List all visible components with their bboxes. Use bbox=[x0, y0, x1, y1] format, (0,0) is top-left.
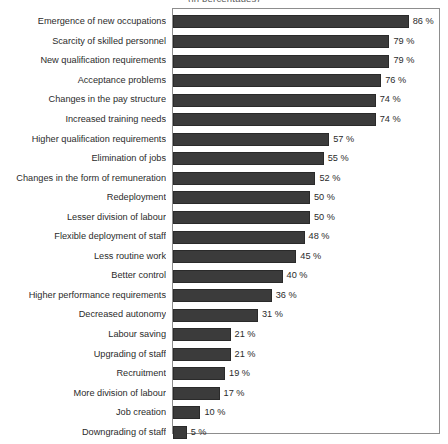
bar-value-label: 17 % bbox=[224, 384, 245, 404]
bar-row: Downgrading of staff5 % bbox=[0, 423, 448, 443]
bar-category-label: Job creation bbox=[0, 403, 166, 423]
bar-value-label: 86 % bbox=[413, 12, 434, 32]
bar-category-label: Higher qualification requirements bbox=[0, 130, 166, 150]
bar bbox=[173, 270, 283, 283]
bar bbox=[173, 15, 409, 28]
bar bbox=[173, 211, 310, 224]
bar-category-label: Recruitment bbox=[0, 364, 166, 384]
bar-value-label: 76 % bbox=[385, 71, 406, 91]
bar-row: Changes in the form of remuneration52 % bbox=[0, 169, 448, 189]
bar-row: Better control40 % bbox=[0, 266, 448, 286]
bar-row: Higher qualification requirements57 % bbox=[0, 130, 448, 150]
bar-row: Increased training needs74 % bbox=[0, 110, 448, 130]
bar bbox=[173, 289, 272, 302]
bar-chart: (in percentages) Emergence of new occupa… bbox=[0, 0, 448, 444]
bar-row: Job creation10 % bbox=[0, 403, 448, 423]
bar-row: Higher performance requirements36 % bbox=[0, 286, 448, 306]
bar-category-label: Better control bbox=[0, 266, 166, 286]
bar-value-label: 36 % bbox=[276, 286, 297, 306]
bar bbox=[173, 250, 296, 263]
bar-category-label: Redeployment bbox=[0, 188, 166, 208]
bar-row: Lesser division of labour50 % bbox=[0, 208, 448, 228]
bar-row: Recruitment19 % bbox=[0, 364, 448, 384]
bar-category-label: Lesser division of labour bbox=[0, 208, 166, 228]
bar-value-label: 79 % bbox=[393, 32, 414, 52]
bar-value-label: 40 % bbox=[287, 266, 308, 286]
bar-category-label: Labour saving bbox=[0, 325, 166, 345]
bar-value-label: 5 % bbox=[191, 423, 207, 443]
bar bbox=[173, 133, 329, 146]
bar-category-label: Higher performance requirements bbox=[0, 286, 166, 306]
bar-category-label: Increased training needs bbox=[0, 110, 166, 130]
bar-value-label: 74 % bbox=[380, 110, 401, 130]
bar bbox=[173, 74, 381, 87]
bar-row: Labour saving21 % bbox=[0, 325, 448, 345]
bar bbox=[173, 309, 258, 322]
bar bbox=[173, 152, 324, 165]
bar bbox=[173, 94, 376, 107]
bar-category-label: Changes in the pay structure bbox=[0, 90, 166, 110]
bar-category-label: Emergence of new occupations bbox=[0, 12, 166, 32]
bar-category-label: Acceptance problems bbox=[0, 71, 166, 91]
bar-row: Decreased autonomy31 % bbox=[0, 305, 448, 325]
bar bbox=[173, 113, 376, 126]
bar bbox=[173, 406, 200, 419]
bar-row: Changes in the pay structure74 % bbox=[0, 90, 448, 110]
bar bbox=[173, 55, 389, 68]
bar bbox=[173, 348, 231, 361]
bar-category-label: Upgrading of staff bbox=[0, 345, 166, 365]
bar-row: Scarcity of skilled personnel79 % bbox=[0, 32, 448, 52]
bar bbox=[173, 367, 225, 380]
bar-category-label: Scarcity of skilled personnel bbox=[0, 32, 166, 52]
chart-rows: Emergence of new occupations86 %Scarcity… bbox=[0, 0, 448, 444]
bar-row: Upgrading of staff21 % bbox=[0, 345, 448, 365]
bar-value-label: 10 % bbox=[204, 403, 225, 423]
bar-value-label: 74 % bbox=[380, 90, 401, 110]
bar-value-label: 31 % bbox=[262, 305, 283, 325]
bar-category-label: New qualification requirements bbox=[0, 51, 166, 71]
bar-value-label: 57 % bbox=[333, 130, 354, 150]
bar bbox=[173, 426, 187, 439]
bar-category-label: More division of labour bbox=[0, 384, 166, 404]
bar bbox=[173, 35, 389, 48]
bar-category-label: Less routine work bbox=[0, 247, 166, 267]
bar-value-label: 79 % bbox=[393, 51, 414, 71]
bar-category-label: Downgrading of staff bbox=[0, 423, 166, 443]
bar bbox=[173, 231, 305, 244]
bar-value-label: 21 % bbox=[235, 325, 256, 345]
bar-value-label: 50 % bbox=[314, 208, 335, 228]
bar-row: Less routine work45 % bbox=[0, 247, 448, 267]
bar-value-label: 52 % bbox=[319, 169, 340, 189]
bar-value-label: 48 % bbox=[309, 227, 330, 247]
bar-value-label: 45 % bbox=[300, 247, 321, 267]
bar-row: New qualification requirements79 % bbox=[0, 51, 448, 71]
bar-category-label: Flexible deployment of staff bbox=[0, 227, 166, 247]
bar bbox=[173, 328, 231, 341]
bar-value-label: 19 % bbox=[229, 364, 250, 384]
bar-row: Flexible deployment of staff48 % bbox=[0, 227, 448, 247]
bar-value-label: 50 % bbox=[314, 188, 335, 208]
bar-value-label: 55 % bbox=[328, 149, 349, 169]
bar-row: Redeployment50 % bbox=[0, 188, 448, 208]
bar-row: Elimination of jobs55 % bbox=[0, 149, 448, 169]
bar-category-label: Changes in the form of remuneration bbox=[0, 169, 166, 189]
bar-category-label: Elimination of jobs bbox=[0, 149, 166, 169]
bar-row: Emergence of new occupations86 % bbox=[0, 12, 448, 32]
bar bbox=[173, 191, 310, 204]
bar-category-label: Decreased autonomy bbox=[0, 305, 166, 325]
bar bbox=[173, 387, 220, 400]
bar bbox=[173, 172, 315, 185]
bar-row: More division of labour17 % bbox=[0, 384, 448, 404]
bar-value-label: 21 % bbox=[235, 345, 256, 365]
bar-row: Acceptance problems76 % bbox=[0, 71, 448, 91]
